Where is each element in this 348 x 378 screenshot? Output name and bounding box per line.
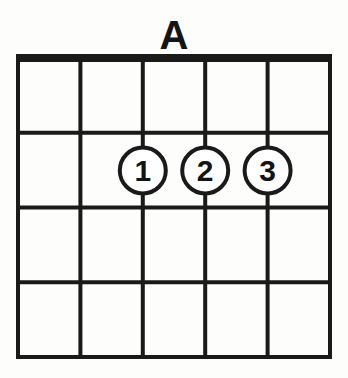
finger-number-label: 2 [197, 154, 214, 187]
finger-dot-1[interactable]: 1 [120, 148, 166, 194]
fret-lines-group [16, 58, 332, 357]
chord-diagram-page: A 123 [0, 0, 348, 378]
fretboard-diagram: 123 [0, 0, 348, 378]
finger-dot-3[interactable]: 3 [245, 148, 291, 194]
finger-number-label: 3 [259, 154, 276, 187]
finger-dot-2[interactable]: 2 [182, 148, 228, 194]
finger-number-label: 1 [134, 154, 151, 187]
finger-dots-group: 123 [120, 148, 291, 194]
